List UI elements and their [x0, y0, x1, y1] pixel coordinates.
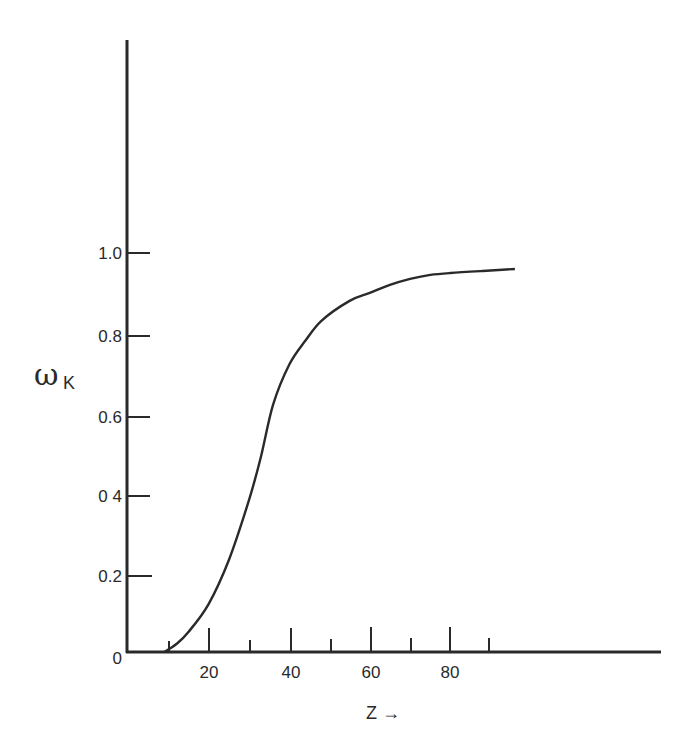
y-axis-title: ω K: [34, 357, 75, 393]
y-label-0.2: 0.2: [98, 567, 122, 586]
x-label-20: 20: [200, 663, 219, 682]
y-axis-title-omega: ω: [34, 357, 58, 392]
x-axis-title: Z →: [366, 703, 400, 723]
y-ticks: [127, 253, 152, 576]
y-axis-title-subscript: K: [63, 373, 75, 393]
y-label-0.4: 0 4: [98, 487, 122, 506]
x-ticks: [169, 627, 489, 652]
origin-label: 0: [113, 649, 122, 668]
y-label-0.6: 0.6: [98, 408, 122, 427]
y-tick-labels: 1.0 0.8 0.6 0 4 0.2 0: [98, 244, 122, 668]
y-label-1.0: 1.0: [98, 244, 122, 263]
omega-k-curve: [164, 269, 515, 652]
x-label-80: 80: [441, 663, 460, 682]
chart-canvas: 1.0 0.8 0.6 0 4 0.2 0 20 40 60 80 Z → ω …: [0, 0, 687, 750]
x-label-60: 60: [362, 663, 381, 682]
y-label-0.8: 0.8: [98, 327, 122, 346]
x-label-40: 40: [282, 663, 301, 682]
x-tick-labels: 20 40 60 80: [200, 663, 460, 682]
